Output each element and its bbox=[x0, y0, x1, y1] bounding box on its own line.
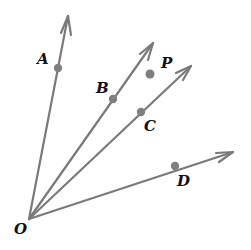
label-A: A bbox=[35, 50, 49, 68]
ray-OB: B bbox=[29, 43, 153, 219]
ray-OD: D bbox=[29, 152, 233, 219]
point-A bbox=[54, 64, 62, 72]
label-P: P bbox=[160, 54, 173, 72]
rays-diagram: A B C D P O bbox=[0, 0, 251, 250]
label-O: O bbox=[14, 220, 27, 238]
point-D bbox=[171, 162, 179, 170]
label-C: C bbox=[144, 117, 156, 135]
label-D: D bbox=[176, 172, 190, 190]
point-C bbox=[137, 108, 145, 116]
point-P bbox=[146, 70, 155, 79]
label-B: B bbox=[95, 79, 109, 97]
point-B bbox=[109, 95, 117, 103]
